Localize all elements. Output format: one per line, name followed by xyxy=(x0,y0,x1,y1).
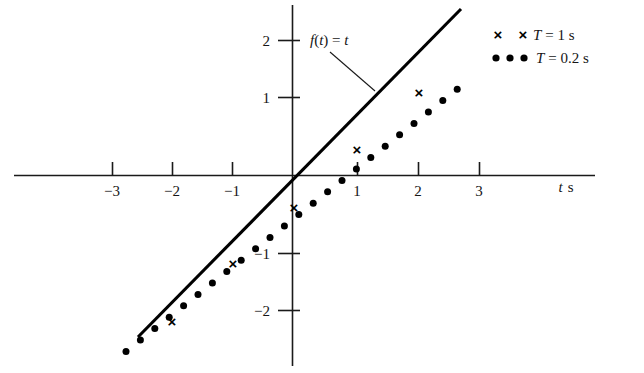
sample-dot xyxy=(310,200,317,207)
y-tick-label--2: −2 xyxy=(254,303,270,319)
y-tick-label-2: 2 xyxy=(263,33,271,49)
sample-dot xyxy=(396,131,403,138)
sample-dot xyxy=(382,143,389,150)
legend-label-T-1s: T= 1 s xyxy=(533,27,575,43)
figure-container: −3 −2 −1 1 2 3 2 1 −1 −2 ts xyxy=(0,0,644,373)
legend-rest-T-1s: = 1 s xyxy=(545,27,574,43)
legend: × × T= 1 s T= 0.2 s xyxy=(492,26,589,66)
legend-entry-T-1s: × × T= 1 s xyxy=(494,26,575,43)
function-line-f-of-t xyxy=(138,9,461,337)
sample-dot xyxy=(195,291,202,298)
legend-label-T-0p2s: T= 0.2 s xyxy=(536,50,589,66)
sample-dot xyxy=(439,97,446,104)
samples-T-1-group: × × × × × xyxy=(168,84,424,330)
sample-dot xyxy=(151,325,158,332)
x-ticks-group xyxy=(113,162,480,176)
x-axis-label-unit: s xyxy=(568,179,574,195)
legend-var-T-1s: T xyxy=(533,27,543,43)
sample-dot xyxy=(209,280,216,287)
x-tick-label--3: −3 xyxy=(104,183,120,199)
sampling-plot: −3 −2 −1 1 2 3 2 1 −1 −2 ts xyxy=(0,0,644,373)
legend-rest-T-0p2s: = 0.2 s xyxy=(548,50,589,66)
annotation-leader-line xyxy=(330,52,375,91)
x-tick-label--1: −1 xyxy=(224,183,240,199)
sample-dot xyxy=(281,223,288,230)
legend-entry-T-0p2s: T= 0.2 s xyxy=(492,50,589,66)
x-tick-label-3: 3 xyxy=(475,183,483,199)
sample-dot xyxy=(339,177,346,184)
sample-x-marker: × xyxy=(168,313,177,330)
x-axis-label-variable: t xyxy=(558,179,563,195)
sample-dot xyxy=(367,154,374,161)
x-axis-label: ts xyxy=(558,179,573,195)
legend-dot-marker-icon xyxy=(492,54,499,61)
y-tick-label-1: 1 xyxy=(263,90,271,106)
sample-x-marker: × xyxy=(229,255,238,272)
sample-dot xyxy=(454,86,461,93)
x-tick-label-2: 2 xyxy=(414,183,422,199)
sample-dot xyxy=(411,120,418,127)
sample-dot xyxy=(425,109,432,116)
sample-dot xyxy=(238,257,245,264)
legend-var-T-0p2s: T xyxy=(536,50,546,66)
annotation-t2: t xyxy=(344,32,349,48)
sample-x-marker: × xyxy=(290,199,299,216)
sample-dot xyxy=(252,245,259,252)
sample-dot xyxy=(137,337,144,344)
legend-x-marker-icon: × xyxy=(519,26,528,43)
legend-dot-marker-icon xyxy=(506,54,513,61)
annotation-paren-close: ) = xyxy=(323,32,344,49)
sample-dot xyxy=(324,188,331,195)
sample-dot xyxy=(267,234,274,241)
sample-x-marker: × xyxy=(353,141,362,158)
sample-dot xyxy=(353,166,360,173)
sample-dot xyxy=(180,302,187,309)
legend-x-marker-icon: × xyxy=(494,26,503,43)
sample-dot xyxy=(123,348,130,355)
x-tick-label-1: 1 xyxy=(353,183,361,199)
function-annotation-label: f(t) = t xyxy=(310,32,349,49)
sample-x-marker: × xyxy=(415,84,424,101)
x-tick-label--2: −2 xyxy=(164,183,180,199)
legend-dot-marker-icon xyxy=(520,54,527,61)
x-tick-labels-group: −3 −2 −1 1 2 3 xyxy=(104,183,483,199)
